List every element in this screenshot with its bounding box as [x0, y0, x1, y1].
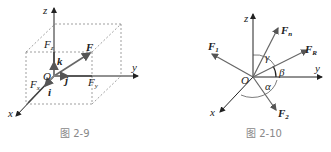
component-Fy-label: Fy: [87, 76, 99, 90]
z-axis-label: z: [42, 4, 48, 16]
origin-label: O: [241, 74, 249, 86]
component-Fz-label: Fz: [43, 38, 54, 52]
force-F2-label: F2: [277, 107, 289, 121]
y-axis-label: y: [131, 61, 137, 73]
x-axis-label: x: [209, 106, 215, 118]
force-Fn-label: Fn: [280, 24, 292, 38]
angle-arc-beta: [273, 66, 276, 77]
figures-canvas: z y x O F Fz Fy Fx k j i 图 2-9 z y x O F…: [0, 0, 331, 152]
force-F-label: F: [85, 41, 94, 53]
caption-fig-2-10: 图 2-10: [246, 128, 282, 139]
x-axis-label: x: [7, 107, 13, 119]
component-Fx-label: Fx: [29, 78, 41, 92]
angle-gamma-label: γ: [265, 51, 270, 63]
z-axis-label: z: [243, 12, 249, 24]
caption-fig-2-9: 图 2-9: [60, 128, 90, 139]
force-FR-label: FR: [304, 43, 317, 57]
y-axis-label: y: [314, 62, 320, 74]
figure-2-10: z y x O F1 F2 Fn FR γ β α 图 2-10: [207, 12, 322, 139]
figure-2-9: z y x O F Fz Fy Fx k j i 图 2-9: [7, 4, 138, 139]
angle-beta-label: β: [278, 66, 285, 78]
unit-k-label: k: [57, 55, 63, 67]
unit-i-label: i: [48, 86, 52, 98]
origin-label: O: [43, 70, 51, 82]
angle-alpha-label: α: [265, 80, 271, 92]
force-F1-label: F1: [207, 40, 219, 54]
